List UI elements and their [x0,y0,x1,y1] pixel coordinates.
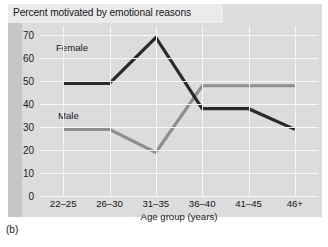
y-axis-tick-label: 30 [23,122,34,133]
gridline-horizontal [40,127,318,128]
gridline-horizontal [40,196,318,197]
gridline-horizontal [40,150,318,151]
left-edge-band [8,4,22,217]
gridline-horizontal [40,173,318,174]
series-line-female [63,37,295,129]
figure-b: Percent motivated by emotional reasons F… [0,0,328,247]
gridline-horizontal [40,104,318,105]
x-axis-tick-label: 36–40 [189,198,216,209]
figure-caption: (b) [6,224,18,235]
gridline-horizontal [40,58,318,59]
gridline-vertical [202,26,203,196]
y-axis-tick-label: 60 [23,53,34,64]
plot-area: Female Male 01020304050607022–2526–3031–… [40,26,318,196]
gridline-vertical [156,26,157,196]
gridline-vertical [63,26,64,196]
y-axis-tick-label: 20 [23,145,34,156]
y-axis-tick-label: 70 [23,30,34,41]
x-axis-tick-label: 41–45 [235,198,262,209]
x-axis-tick-label: 46+ [287,198,303,209]
y-axis-tick-label: 50 [23,76,34,87]
gridline-vertical [295,26,296,196]
series-label-female: Female [56,42,88,53]
y-axis-tick-label: 40 [23,99,34,110]
x-axis-tick-label: 26–30 [96,198,123,209]
chart-title: Percent motivated by emotional reasons [13,7,191,18]
gridline-horizontal [40,81,318,82]
gridline-vertical [249,26,250,196]
series-line-male [63,86,295,153]
series-label-male: Male [58,110,79,121]
x-axis-tick-label: 31–35 [142,198,169,209]
gridline-vertical [110,26,111,196]
y-axis-tick-label: 0 [28,191,34,202]
gridline-horizontal [40,35,318,36]
x-axis-label: Age group (years) [40,211,318,222]
y-axis-tick-label: 10 [23,168,34,179]
x-axis-tick-label: 22–25 [50,198,77,209]
